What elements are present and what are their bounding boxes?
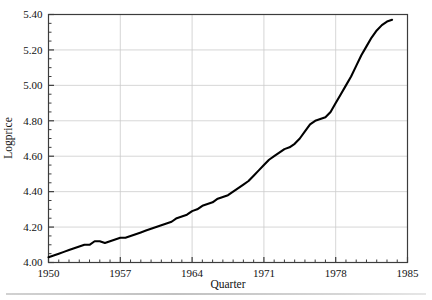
x-tick-label: 1978 bbox=[325, 267, 348, 279]
x-tick-label: 1957 bbox=[109, 267, 132, 279]
x-tick-label: 1971 bbox=[253, 267, 275, 279]
y-tick-label: 5.00 bbox=[23, 79, 43, 91]
line-chart: 4.004.204.404.604.805.005.205.40 1950195… bbox=[0, 0, 432, 300]
y-tick-label: 5.40 bbox=[23, 8, 43, 20]
x-tick-label: 1964 bbox=[181, 267, 204, 279]
y-tick-label: 4.80 bbox=[23, 115, 43, 127]
x-tick-label: 1950 bbox=[38, 267, 61, 279]
y-tick-label: 4.20 bbox=[23, 221, 43, 233]
y-tick-label: 5.20 bbox=[23, 44, 43, 56]
x-axis-title: Quarter bbox=[210, 278, 245, 290]
x-tick-label: 1985 bbox=[397, 267, 420, 279]
y-axis-title: Logprice bbox=[2, 117, 15, 159]
y-tick-label: 4.60 bbox=[23, 150, 43, 162]
figure-panel: 4.004.204.404.604.805.005.205.40 1950195… bbox=[0, 0, 432, 300]
y-tick-label: 4.40 bbox=[23, 185, 43, 197]
footer-divider bbox=[6, 293, 426, 295]
